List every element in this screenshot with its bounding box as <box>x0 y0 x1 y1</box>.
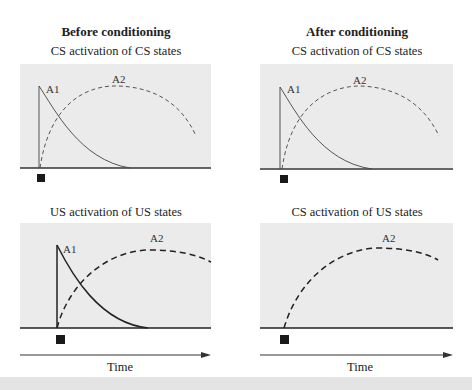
time-axis-label-right: Time <box>330 360 390 375</box>
svg-text:A1: A1 <box>287 83 300 95</box>
svg-text:A2: A2 <box>150 232 163 244</box>
svg-text:A2: A2 <box>382 232 395 244</box>
curve-label-a1: A1 <box>46 83 59 95</box>
stimulus-marker <box>56 335 65 344</box>
stimulus-marker <box>280 175 288 183</box>
stimulus-marker <box>37 174 45 182</box>
panel-before-top: A1 A2 <box>0 0 236 195</box>
bottom-strip <box>0 377 472 390</box>
curve-label-a2: A2 <box>112 73 125 85</box>
svg-text:A2: A2 <box>353 74 366 86</box>
time-axis-label-left: Time <box>90 360 150 375</box>
svg-text:A1: A1 <box>63 243 76 255</box>
panel-after-top: A1 A2 <box>236 0 472 195</box>
stimulus-marker <box>280 335 289 344</box>
